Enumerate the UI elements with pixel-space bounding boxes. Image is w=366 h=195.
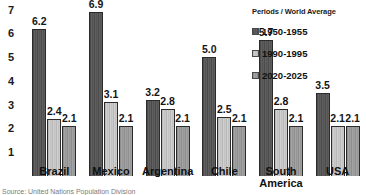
bar-group: 6.93.12.1	[83, 0, 140, 176]
bar-column: 2.1	[62, 0, 76, 176]
legend-item-1950-1955[interactable]: 1950-1955	[252, 20, 364, 42]
bar-value-label: 5.0	[202, 44, 217, 55]
bar-value-label: 2.4	[47, 106, 62, 117]
legend-item-label: 2020-2025	[262, 70, 307, 81]
legend-swatch-icon	[252, 50, 259, 57]
legend-swatch-icon	[252, 72, 259, 79]
bar[interactable]	[32, 29, 46, 176]
x-axis-label-line: Mexico	[83, 166, 140, 178]
bar-value-label: 2.1	[175, 113, 190, 124]
y-axis-tick: 1	[0, 147, 22, 158]
bar-column: 5.0	[202, 0, 216, 176]
bar-column: 3.2	[146, 0, 160, 176]
bar-column: 3.1	[104, 0, 118, 176]
x-axis-label-line: USA	[309, 166, 366, 178]
bar-group: 5.02.52.1	[196, 0, 253, 176]
bar-column: 2.8	[161, 0, 175, 176]
bar-value-label: 2.5	[217, 104, 232, 115]
bar-column: 2.4	[47, 0, 61, 176]
y-axis-tick: 2	[0, 123, 22, 134]
x-axis-label-line: Brazil	[26, 166, 83, 178]
bar-group: 6.22.42.1	[26, 0, 83, 176]
legend-swatch-icon	[252, 28, 259, 35]
legend-title: Periods / World Average	[252, 7, 364, 16]
bar-value-label: 3.1	[104, 89, 119, 100]
legend-item-1990-1995[interactable]: 1990-1995	[252, 42, 364, 64]
bar-value-label: 2.1	[345, 113, 360, 124]
x-axis-label: Mexico	[83, 166, 140, 178]
source-note: Source: United Nations Population Divisi…	[2, 188, 135, 195]
x-axis-label: USA	[309, 166, 366, 178]
bar-group: 3.22.82.1	[139, 0, 196, 176]
y-axis: 7654321	[0, 0, 26, 176]
bar-chart: 7654321 6.22.42.16.93.12.13.22.82.15.02.…	[0, 0, 366, 195]
y-axis-tick: 6	[0, 28, 22, 39]
x-axis-label: SouthAmerica	[253, 166, 310, 189]
bar-column: 6.2	[32, 0, 46, 176]
bar-column: 2.1	[119, 0, 133, 176]
bar-value-label: 2.8	[160, 96, 175, 107]
bar-value-label: 6.9	[89, 0, 104, 10]
y-axis-tick: 5	[0, 52, 22, 63]
bar[interactable]	[89, 12, 103, 176]
legend-item-label: 1990-1995	[262, 48, 307, 59]
x-axis-label: Chile	[196, 166, 253, 178]
x-axis-label: Argentina	[139, 166, 196, 178]
bar-value-label: 2.8	[274, 96, 289, 107]
x-axis-label-line: America	[253, 178, 310, 190]
bar-column: 2.1	[232, 0, 246, 176]
bar-column: 6.9	[89, 0, 103, 176]
bar-value-label: 2.1	[232, 113, 247, 124]
bar-column: 2.1	[176, 0, 190, 176]
bar-column: 2.5	[217, 0, 231, 176]
x-axis-label-line: Argentina	[139, 166, 196, 178]
bar[interactable]	[316, 93, 330, 176]
y-axis-tick: 7	[0, 5, 22, 16]
chart-legend: Periods / World Average 1950-1955 1990-1…	[252, 7, 364, 86]
y-axis-tick: 3	[0, 100, 22, 111]
x-axis-label-line: Chile	[196, 166, 253, 178]
x-axis-label-line: South	[253, 166, 310, 178]
bar-value-label: 2.1	[62, 113, 77, 124]
bar-value-label: 2.1	[119, 113, 134, 124]
bar-value-label: 2.1	[289, 113, 304, 124]
bar-value-label: 2.1	[330, 113, 345, 124]
x-axis-label: Brazil	[26, 166, 83, 178]
bar[interactable]	[202, 57, 216, 176]
y-axis-tick: 4	[0, 76, 22, 87]
legend-item-2020-2025[interactable]: 2020-2025	[252, 64, 364, 86]
bar-value-label: 6.2	[32, 16, 47, 27]
legend-item-label: 1950-1955	[262, 26, 307, 37]
bar-value-label: 3.2	[145, 87, 160, 98]
